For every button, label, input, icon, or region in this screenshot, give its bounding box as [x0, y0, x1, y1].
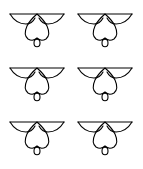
flower-icon: [76, 65, 134, 105]
flower-icon: [76, 11, 134, 51]
flower-icon: [8, 11, 66, 51]
flower-motif-2: [76, 11, 134, 51]
flower-motif-6: [76, 119, 134, 159]
flower-motif-3: [8, 65, 66, 105]
flower-icon: [76, 119, 134, 159]
flower-motif-5: [8, 119, 66, 159]
flower-motif-4: [76, 65, 134, 105]
flower-icon: [8, 119, 66, 159]
flower-motif-1: [8, 11, 66, 51]
flower-icon: [8, 65, 66, 105]
